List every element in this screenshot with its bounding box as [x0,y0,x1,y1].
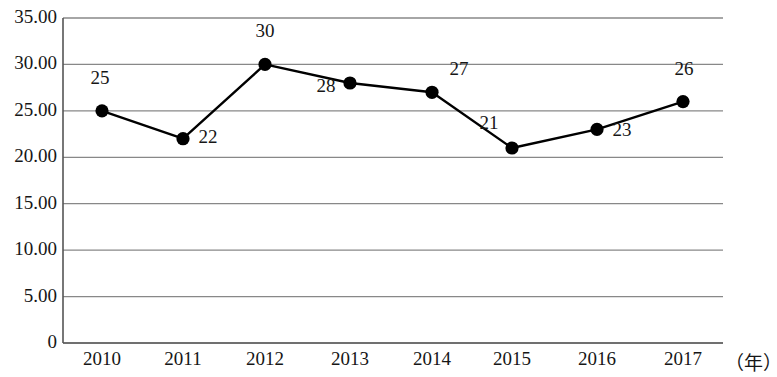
gridlines [63,18,723,343]
x-axis-tick-label: 2015 [472,348,552,370]
data-point-value-label: 22 [188,126,228,148]
chart-plot-area [0,0,777,377]
data-point-marker[interactable] [425,86,438,99]
y-axis-tick-label: 15.00 [0,192,57,214]
y-axis-tick-label: 5.00 [0,285,57,307]
data-point-value-label: 26 [664,58,704,80]
y-axis-tick-label: 0 [0,331,57,353]
x-axis-tick-label: 2011 [143,348,223,370]
x-axis-unit-label: （年） [725,348,777,375]
x-axis-tick-label: 2016 [557,348,637,370]
line-chart: 05.0010.0015.0020.0025.0030.0035.00 2010… [0,0,777,377]
series-markers [95,58,689,155]
x-axis-tick-label: 2012 [225,348,305,370]
y-axis-tick-label: 35.00 [0,6,57,28]
x-axis-tick-label: 2017 [643,348,723,370]
data-point-value-label: 28 [306,75,346,97]
data-point-value-label: 25 [80,67,120,89]
data-point-value-label: 30 [245,20,285,42]
data-point-value-label: 27 [439,58,479,80]
x-axis-tick-label: 2010 [62,348,142,370]
y-axis-tick-label: 10.00 [0,238,57,260]
data-point-marker[interactable] [258,58,271,71]
x-axis-tick-label: 2013 [310,348,390,370]
x-axis-tick-label: 2014 [392,348,472,370]
y-axis-tick-label: 25.00 [0,99,57,121]
axis-lines [63,18,723,343]
y-axis-tick-label: 20.00 [0,145,57,167]
data-point-value-label: 23 [602,119,642,141]
data-point-marker[interactable] [505,141,518,154]
y-axis-tick-label: 30.00 [0,52,57,74]
data-point-value-label: 21 [469,112,509,134]
data-point-marker[interactable] [676,95,689,108]
data-point-marker[interactable] [95,104,108,117]
